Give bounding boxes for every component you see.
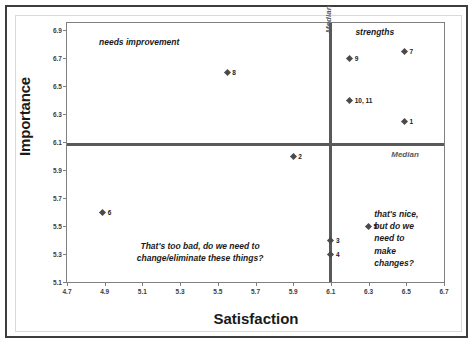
median-label-horizontal: Median	[391, 150, 419, 159]
y-axis-tick-label: 5.1	[53, 279, 62, 286]
x-axis-tick-label: 4.9	[100, 288, 109, 295]
x-axis-tick-mark	[293, 282, 294, 286]
annotation-needs-improvement: needs improvement	[99, 36, 179, 48]
x-axis-tick-label: 6.3	[364, 288, 373, 295]
data-point-marker[interactable]	[401, 117, 408, 124]
data-point-marker[interactable]	[346, 54, 353, 61]
x-axis-tick-label: 6.5	[402, 288, 411, 295]
x-axis-tick-label: 5.1	[138, 288, 147, 295]
x-axis-tick-label: 6.1	[326, 288, 335, 295]
data-point-marker[interactable]	[365, 222, 372, 229]
data-point-label: 3	[336, 237, 340, 244]
x-axis-title: Satisfaction	[66, 310, 446, 327]
quadrant-scatter-figure: Importance Satisfaction 5.15.35.55.75.96…	[0, 0, 473, 343]
y-axis-tick-label: 6.3	[53, 111, 62, 118]
annotation-bottom-left: That's too bad, do we need to change/eli…	[137, 240, 264, 265]
x-axis-tick-mark	[256, 282, 257, 286]
data-point-marker[interactable]	[327, 236, 334, 243]
y-axis-tick-label: 5.3	[53, 251, 62, 258]
annotation-strengths: strengths	[355, 26, 394, 38]
x-axis-tick-mark	[444, 282, 445, 286]
median-line-horizontal	[67, 143, 444, 146]
y-axis-tick-label: 6.9	[53, 27, 62, 34]
y-axis-tick-mark	[63, 226, 67, 227]
y-axis-tick-label: 5.7	[53, 195, 62, 202]
x-axis-tick-label: 5.3	[176, 288, 185, 295]
data-point-marker[interactable]	[224, 68, 231, 75]
y-axis-tick-mark	[63, 254, 67, 255]
data-point-marker[interactable]	[346, 96, 353, 103]
x-axis-tick-mark	[142, 282, 143, 286]
x-axis-tick-mark	[331, 282, 332, 286]
y-axis-tick-label: 6.7	[53, 55, 62, 62]
y-axis-tick-label: 6.1	[53, 139, 62, 146]
data-point-label: 2	[298, 153, 302, 160]
x-axis-tick-mark	[218, 282, 219, 286]
data-point-marker[interactable]	[290, 152, 297, 159]
x-axis-tick-mark	[406, 282, 407, 286]
data-point-marker[interactable]	[401, 47, 408, 54]
y-axis-tick-mark	[63, 170, 67, 171]
x-axis-tick-label: 6.7	[439, 288, 448, 295]
x-axis-tick-label: 4.7	[62, 288, 71, 295]
y-axis-tick-mark	[63, 86, 67, 87]
data-point-label: 8	[232, 69, 236, 76]
median-label-vertical: Median	[324, 5, 333, 33]
data-point-label: 1	[409, 118, 413, 125]
data-point-label: 9	[355, 55, 359, 62]
y-axis-title: Importance	[16, 57, 33, 177]
data-point-marker[interactable]	[99, 208, 106, 215]
plot-area: 5.15.35.55.75.96.16.36.56.76.94.74.95.15…	[66, 22, 445, 283]
x-axis-tick-label: 5.9	[289, 288, 298, 295]
data-point-label: 4	[336, 251, 340, 258]
y-axis-tick-label: 5.5	[53, 223, 62, 230]
y-axis-tick-mark	[63, 114, 67, 115]
x-axis-tick-label: 5.5	[213, 288, 222, 295]
annotation-bottom-right: that's nice, but do we need to make chan…	[374, 208, 418, 270]
y-axis-tick-label: 6.5	[53, 83, 62, 90]
y-axis-tick-mark	[63, 58, 67, 59]
y-axis-tick-mark	[63, 30, 67, 31]
data-point-label: 6	[108, 209, 112, 216]
data-point-marker[interactable]	[327, 250, 334, 257]
data-point-label: 10, 11	[355, 97, 373, 104]
x-axis-tick-label: 5.7	[251, 288, 260, 295]
y-axis-tick-mark	[63, 198, 67, 199]
x-axis-tick-mark	[180, 282, 181, 286]
x-axis-tick-mark	[369, 282, 370, 286]
x-axis-tick-mark	[105, 282, 106, 286]
data-point-label: 7	[409, 48, 413, 55]
x-axis-tick-mark	[67, 282, 68, 286]
y-axis-tick-label: 5.9	[53, 167, 62, 174]
